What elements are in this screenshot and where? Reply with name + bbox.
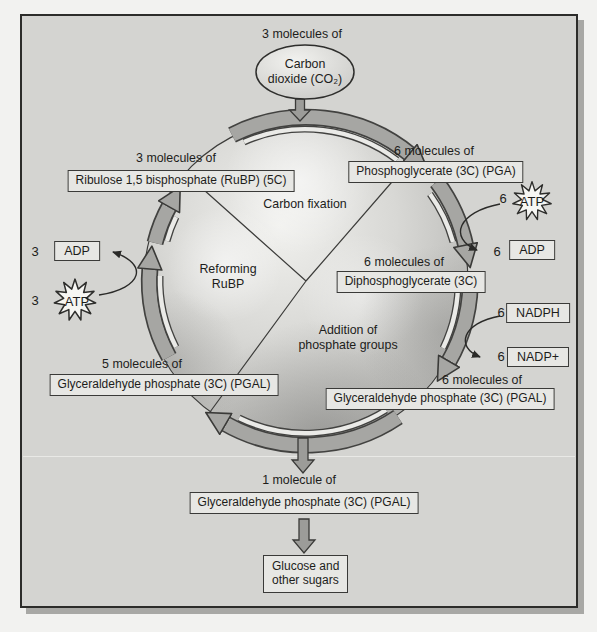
rubp-count-label: 3 molecules of: [136, 151, 216, 165]
dpg-box: Diphosphoglycerate (3C): [337, 271, 486, 293]
glucose-box: Glucose and other sugars: [263, 555, 348, 593]
pgal-output-box: Glyceraldehyde phosphate (3C) (PGAL): [190, 492, 419, 514]
nadp-count: 6: [497, 349, 504, 364]
adp-right-box: ADP: [509, 240, 555, 260]
pga-count-label: 6 molecules of: [394, 144, 474, 158]
atp-right-label: ATP: [520, 194, 544, 209]
pga-box: Phosphoglycerate (3C) (PGA): [348, 161, 523, 183]
rubp-box: Ribulose 1,5 bisphosphate (RuBP) (5C): [68, 170, 295, 192]
atp-left-count: 3: [31, 293, 38, 308]
pgal-output-count-label: 1 molecule of: [262, 473, 336, 487]
pgal-right-count-label: 6 molecules of: [442, 373, 522, 387]
adp-left-count: 3: [31, 244, 38, 259]
pgal-left-box: Glyceraldehyde phosphate (3C) (PGAL): [50, 374, 279, 396]
adp-left-box: ADP: [54, 241, 100, 261]
atp-left-label: ATP: [65, 294, 89, 309]
adp-right-count: 6: [493, 244, 500, 259]
nadph-count: 6: [497, 305, 504, 320]
pgal-left-count-label: 5 molecules of: [102, 357, 182, 371]
nadp-box: NADP+: [507, 347, 569, 367]
sector-label-reforming-rubp: Reforming RuBP: [199, 262, 256, 291]
nadph-box: NADPH: [506, 303, 570, 323]
dpg-count-label: 6 molecules of: [364, 255, 444, 269]
pgal-right-box: Glyceraldehyde phosphate (3C) (PGAL): [326, 388, 555, 410]
calvin-cycle-figure: 3 molecules of Carbon dioxide (CO₂) 3 mo…: [0, 0, 597, 632]
co2-count-label: 3 molecules of: [262, 27, 342, 41]
co2-ellipse-label: Carbon dioxide (CO₂): [268, 57, 342, 86]
atp-right-count: 6: [499, 191, 506, 206]
sector-label-addition-phosphate: Addition of phosphate groups: [298, 323, 397, 352]
sector-label-carbon-fixation: Carbon fixation: [263, 197, 346, 211]
text-layer: 3 molecules of Carbon dioxide (CO₂) 3 mo…: [0, 0, 597, 632]
